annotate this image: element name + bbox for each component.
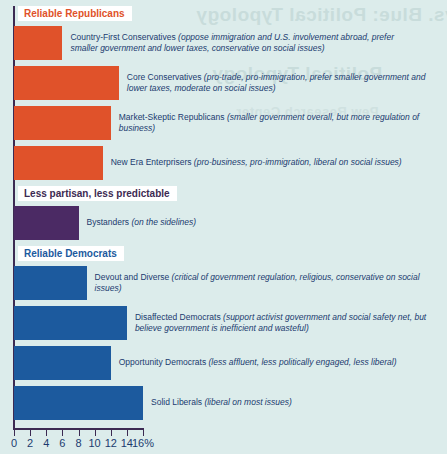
group-header-reliable-republicans: Reliable Republicans (18, 6, 132, 21)
bar-label: Opportunity Democrats (less affluent, le… (119, 357, 443, 369)
bar-label: Devout and Diverse (critical of governme… (95, 272, 435, 295)
x-axis-tick (95, 430, 96, 436)
bar-market-skeptic-republicans (14, 106, 111, 140)
bar-label: Bystanders (on the sidelines) (87, 217, 427, 229)
bar-label-name: Country-First Conservatives (70, 32, 178, 42)
bar-label: New Era Enterprisers (pro-business, pro-… (111, 157, 443, 169)
bar-label-descriptor: (liberal on most issues) (204, 397, 291, 407)
bar-label-name: Market-Skeptic Republicans (119, 112, 227, 122)
x-axis-tick (111, 430, 112, 436)
bar-label-name: Disaffected Democrats (135, 312, 223, 322)
group-header-less-partisan: Less partisan, less predictable (18, 186, 177, 201)
bar-label-name: Bystanders (87, 217, 132, 227)
bar-core-conservatives (14, 66, 119, 100)
bar-new-era-enterprisers (14, 146, 103, 180)
bar-devout-and-diverse (14, 266, 87, 300)
bar-label-name: New Era Enterprisers (111, 157, 194, 167)
bar-label: Solid Liberals (liberal on most issues) (151, 397, 443, 409)
political-typology-bar-chart: 0246810121416% Reliable RepublicansCount… (0, 0, 447, 454)
x-axis-tick (46, 430, 47, 436)
x-axis-tick-label: 16% (132, 437, 154, 449)
bar-label: Market-Skeptic Republicans (smaller gove… (119, 112, 443, 135)
bar-label-name: Devout and Diverse (95, 272, 172, 282)
bar-disaffected-democrats (14, 306, 127, 340)
bar-solid-liberals (14, 386, 143, 420)
bar-label-name: Solid Liberals (151, 397, 204, 407)
x-axis-tick-label: 12 (105, 437, 117, 449)
bar-label-descriptor: (pro-business, pro-immigration, liberal … (194, 157, 402, 167)
bar-label: Core Conservatives (pro-trade, pro-immig… (127, 72, 443, 95)
x-axis-tick-label: 0 (11, 437, 17, 449)
x-axis-tick (127, 430, 128, 436)
group-header-reliable-democrats: Reliable Democrats (18, 246, 124, 261)
x-axis-tick (79, 430, 80, 436)
x-axis-tick (30, 430, 31, 436)
bar-bystanders (14, 206, 79, 240)
x-axis-tick-label: 8 (75, 437, 81, 449)
x-axis-tick (62, 430, 63, 436)
x-axis-tick-label: 6 (59, 437, 65, 449)
x-axis-tick (14, 430, 15, 436)
bar-opportunity-democrats (14, 346, 111, 380)
bar-label-name: Opportunity Democrats (119, 357, 209, 367)
bar-label-descriptor: (on the sidelines) (131, 217, 196, 227)
x-axis-tick-label: 2 (27, 437, 33, 449)
x-axis-tick-label: 4 (43, 437, 49, 449)
bar-label-descriptor: (less affluent, less politically engaged… (209, 357, 397, 367)
bar-label: Disaffected Democrats (support activist … (135, 312, 443, 335)
x-axis-tick (143, 430, 144, 436)
bar-country-first-conservatives (14, 26, 62, 60)
x-axis-tick-label: 10 (89, 437, 101, 449)
bar-label: Country-First Conservatives (oppose immi… (70, 32, 410, 55)
bar-label-name: Core Conservatives (127, 72, 204, 82)
